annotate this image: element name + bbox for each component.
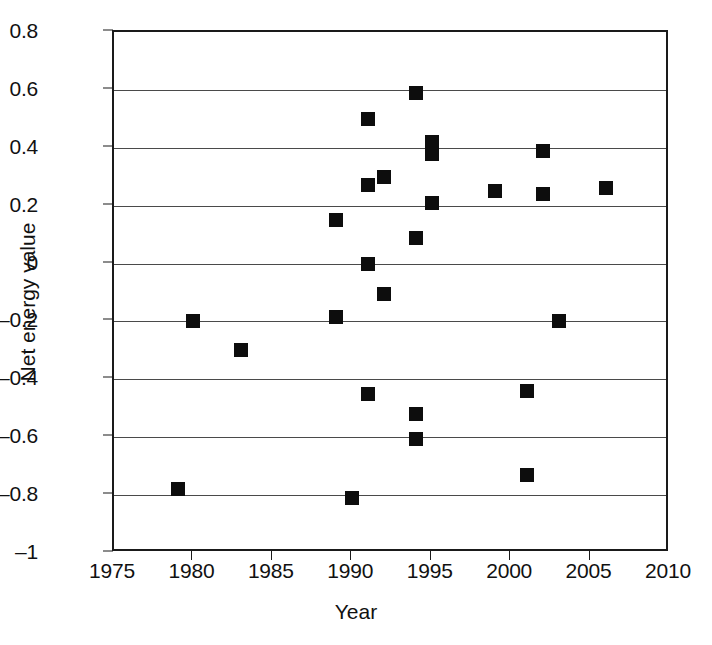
data-point: [377, 287, 391, 301]
y-axis-tick-label: 0.8: [0, 20, 38, 41]
x-axis-tick-mark: [509, 551, 510, 560]
x-axis-tick-mark: [271, 551, 272, 560]
y-axis-tick-mark: [103, 145, 113, 146]
x-axis-tick-label: 2010: [608, 560, 712, 581]
data-point: [520, 468, 534, 482]
data-point: [361, 257, 375, 271]
x-axis-tick-mark: [350, 551, 351, 560]
data-point: [361, 112, 375, 126]
y-axis-tick-mark: [103, 493, 113, 494]
data-point: [552, 314, 566, 328]
data-point: [409, 407, 423, 421]
data-point: [409, 432, 423, 446]
y-axis-tick-mark: [103, 319, 113, 320]
y-axis-tick-mark: [103, 261, 113, 262]
y-axis-tick-mark: [103, 87, 113, 88]
gridline: [114, 437, 666, 438]
data-point: [361, 387, 375, 401]
y-axis-tick-label: –0.8: [0, 483, 38, 504]
data-point: [599, 181, 613, 195]
y-axis-tick-mark: [103, 435, 113, 436]
data-point: [425, 147, 439, 161]
x-axis-title: Year: [0, 600, 712, 624]
data-point: [345, 491, 359, 505]
gridline: [114, 90, 666, 91]
data-point: [329, 213, 343, 227]
gridline: [114, 206, 666, 207]
data-point: [361, 178, 375, 192]
data-point: [377, 170, 391, 184]
data-point: [171, 482, 185, 496]
y-axis-tick-mark: [103, 377, 113, 378]
data-point: [536, 187, 550, 201]
gridline: [114, 148, 666, 149]
plot-area: [112, 30, 668, 551]
y-axis-tick-label: 0.6: [0, 77, 38, 98]
data-point: [425, 196, 439, 210]
x-axis-tick-mark: [430, 551, 431, 560]
y-axis-tick-mark: [103, 30, 113, 31]
gridline: [114, 264, 666, 265]
data-point: [409, 86, 423, 100]
gridline: [114, 495, 666, 496]
data-point: [186, 314, 200, 328]
data-point: [536, 144, 550, 158]
data-point: [520, 384, 534, 398]
data-point: [409, 231, 423, 245]
data-point: [234, 343, 248, 357]
gridline: [114, 379, 666, 380]
data-point: [488, 184, 502, 198]
y-axis-tick-label: –1: [0, 541, 38, 562]
y-axis-title: Net energy value: [16, 132, 40, 472]
x-axis-tick-mark: [589, 551, 590, 560]
scatter-chart: 0.80.60.40.20–0.2–0.4–0.6–0.8–1 19751980…: [0, 0, 712, 645]
y-axis-tick-mark: [103, 203, 113, 204]
y-axis-tick-mark: [103, 551, 113, 552]
x-axis-tick-mark: [191, 551, 192, 560]
data-point: [329, 310, 343, 324]
